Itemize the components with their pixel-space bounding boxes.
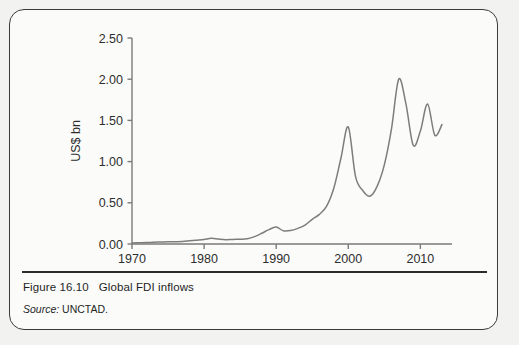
figure-box: 0.000.501.001.502.002.50 197019801990200… <box>9 9 498 330</box>
figure-title: Global FDI inflows <box>99 281 194 293</box>
x-tick-label: 1980 <box>190 252 218 266</box>
y-axis-title: US$ bn <box>69 120 83 162</box>
x-tick-label: 1970 <box>118 252 146 266</box>
y-axis: 0.000.501.001.502.002.50 <box>99 32 132 252</box>
figure-caption: Figure 16.10Global FDI inflows <box>23 281 483 293</box>
figure-number: Figure 16.10 <box>23 281 89 293</box>
caption-block: Figure 16.10Global FDI inflows Source: U… <box>23 276 483 315</box>
source-label: Source: <box>23 303 59 315</box>
x-tick-label: 2000 <box>334 252 362 266</box>
caption-divider <box>22 271 487 273</box>
x-tick-label: 2010 <box>406 252 434 266</box>
y-tick-label: 1.50 <box>99 114 123 128</box>
data-series-line <box>132 79 442 243</box>
chart-area: 0.000.501.001.502.002.50 197019801990200… <box>10 10 499 271</box>
figure-source: Source: UNCTAD. <box>23 303 483 315</box>
y-tick-label: 0.00 <box>99 238 123 252</box>
y-tick-label: 1.00 <box>99 155 123 169</box>
x-tick-label: 1990 <box>262 252 290 266</box>
y-tick-label: 0.50 <box>99 196 123 210</box>
y-tick-label: 2.50 <box>99 32 123 46</box>
y-tick-label: 2.00 <box>99 73 123 87</box>
fdi-line-chart: 0.000.501.001.502.002.50 197019801990200… <box>10 10 499 271</box>
source-value: UNCTAD. <box>62 303 108 315</box>
x-axis: 19701980199020002010 <box>118 244 452 266</box>
